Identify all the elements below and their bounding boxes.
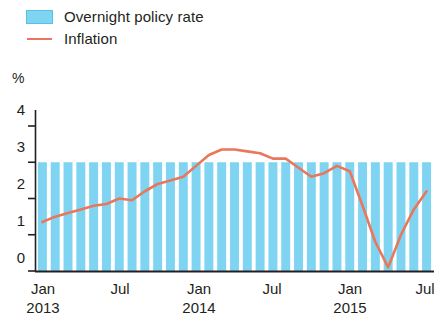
bar	[422, 162, 431, 271]
bar	[38, 162, 47, 271]
y-axis-ticks	[28, 126, 35, 271]
bar-series-overnight-policy-rate	[38, 162, 431, 271]
bar	[153, 162, 162, 271]
bar	[243, 162, 252, 271]
bar	[281, 162, 290, 271]
chart-plot-area	[0, 0, 440, 321]
bar	[76, 162, 85, 271]
bar	[89, 162, 98, 271]
bar	[320, 162, 329, 271]
bar	[294, 162, 303, 271]
bar	[140, 162, 149, 271]
bar	[307, 162, 316, 271]
bar	[384, 162, 393, 271]
bar	[204, 162, 213, 271]
bar	[128, 162, 137, 271]
bar	[332, 162, 341, 271]
bar	[371, 162, 380, 271]
bar	[115, 162, 124, 271]
chart-figure: Overnight policy rate Inflation % 0 1 2 …	[0, 0, 440, 321]
bar	[102, 162, 111, 271]
bar	[230, 162, 239, 271]
bar	[192, 162, 201, 271]
bar	[64, 162, 73, 271]
bar	[256, 162, 265, 271]
bar	[397, 162, 406, 271]
bar	[268, 162, 277, 271]
bar	[217, 162, 226, 271]
